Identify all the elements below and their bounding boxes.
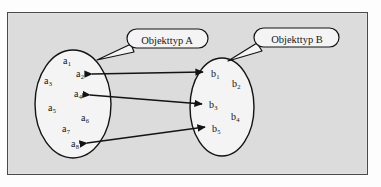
- node-label-a2: a2: [76, 68, 84, 79]
- node-label-a7: a7: [62, 123, 70, 134]
- callout-a-tail: [97, 44, 134, 60]
- callout-b-tail: [228, 43, 262, 61]
- node-label-a8: a8: [71, 138, 79, 149]
- node-label-b1: b1: [211, 68, 219, 79]
- node-label-a6: a6: [81, 112, 89, 123]
- node-label-b5: b5: [212, 123, 220, 134]
- diagram-canvas: [0, 0, 381, 187]
- node-label-a5: a5: [48, 102, 56, 113]
- node-label-b2: b2: [232, 78, 240, 89]
- node-label-a3: a3: [44, 75, 52, 86]
- scanned-page: ——— —— ———— —— ———— ——— —— —————— ——— ——…: [0, 0, 381, 187]
- callout-label-objekttyp-a: Objekttyp A: [131, 35, 203, 46]
- connector-a2-b1: [92, 72, 203, 74]
- callout-label-objekttyp-b: Objekttyp B: [259, 34, 335, 45]
- node-label-b4: b4: [231, 111, 239, 122]
- node-label-a1: a1: [63, 55, 71, 66]
- node-label-b3: b3: [209, 99, 217, 110]
- node-label-a4: a4: [74, 88, 82, 99]
